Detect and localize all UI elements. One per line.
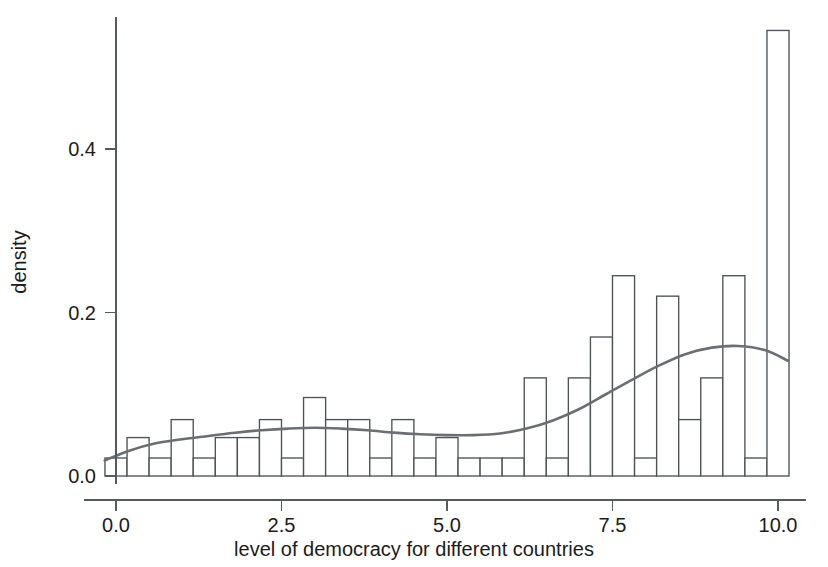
x-tick-label: 5.0 xyxy=(433,514,461,536)
histogram-bar xyxy=(767,30,789,476)
y-axis-title: density xyxy=(8,230,30,293)
density-histogram-figure: 0.00.20.4 0.02.55.07.510.0 density level… xyxy=(0,0,828,567)
histogram-bar xyxy=(568,378,590,476)
histogram-bar xyxy=(480,458,502,476)
histogram-bar xyxy=(745,458,767,476)
x-tick-label: 7.5 xyxy=(599,514,627,536)
x-axis-ticks: 0.02.55.07.510.0 xyxy=(102,500,797,536)
y-tick-label: 0.2 xyxy=(68,302,96,324)
histogram-bar xyxy=(635,458,657,476)
y-tick-label: 0.4 xyxy=(68,138,96,160)
histogram-bar xyxy=(215,438,237,476)
histogram-bar xyxy=(304,398,326,476)
y-tick-label: 0.0 xyxy=(68,465,96,487)
histogram-bar xyxy=(723,276,745,476)
histogram-bar xyxy=(171,420,193,476)
histogram-bar xyxy=(392,420,414,476)
histogram-bar xyxy=(127,438,149,476)
y-axis-ticks: 0.00.20.4 xyxy=(68,138,116,487)
histogram-bar xyxy=(414,458,436,476)
histogram-bar xyxy=(701,378,723,476)
histogram-bar xyxy=(282,458,304,476)
histogram-bar xyxy=(436,438,458,476)
plot-canvas: 0.00.20.4 0.02.55.07.510.0 density level… xyxy=(0,0,828,567)
x-tick-label: 2.5 xyxy=(268,514,296,536)
histogram-bar xyxy=(657,296,679,476)
x-axis-title: level of democracy for different countri… xyxy=(234,538,594,560)
histogram-bar xyxy=(237,438,259,476)
histogram-bar xyxy=(502,458,524,476)
histogram-bar xyxy=(679,420,701,476)
x-tick-label: 0.0 xyxy=(102,514,130,536)
histogram-bar xyxy=(546,458,568,476)
histogram-bar xyxy=(590,337,612,476)
histogram-bars xyxy=(105,30,789,476)
x-tick-label: 10.0 xyxy=(759,514,798,536)
histogram-bar xyxy=(149,458,171,476)
histogram-bar xyxy=(458,458,480,476)
histogram-bar xyxy=(613,276,635,476)
histogram-bar xyxy=(193,458,215,476)
histogram-bar xyxy=(370,458,392,476)
